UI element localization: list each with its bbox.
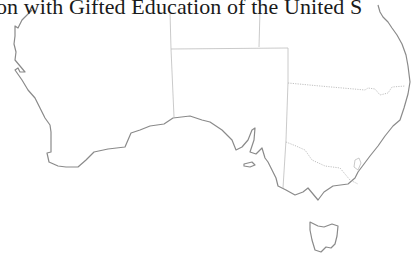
border-wa-east <box>170 12 174 117</box>
page-title-fragment: on with Gifted Education of the United S <box>0 0 362 20</box>
tasmania-outline <box>310 222 338 252</box>
act-outline <box>354 158 361 170</box>
border-nt-sa <box>171 48 288 49</box>
australia-map <box>0 0 417 270</box>
border-qld-nsw <box>288 83 405 95</box>
mainland-coastline <box>14 5 410 200</box>
border-nsw-vic <box>286 142 358 184</box>
border-sa-east <box>283 48 288 188</box>
kangaroo-island <box>244 162 255 167</box>
